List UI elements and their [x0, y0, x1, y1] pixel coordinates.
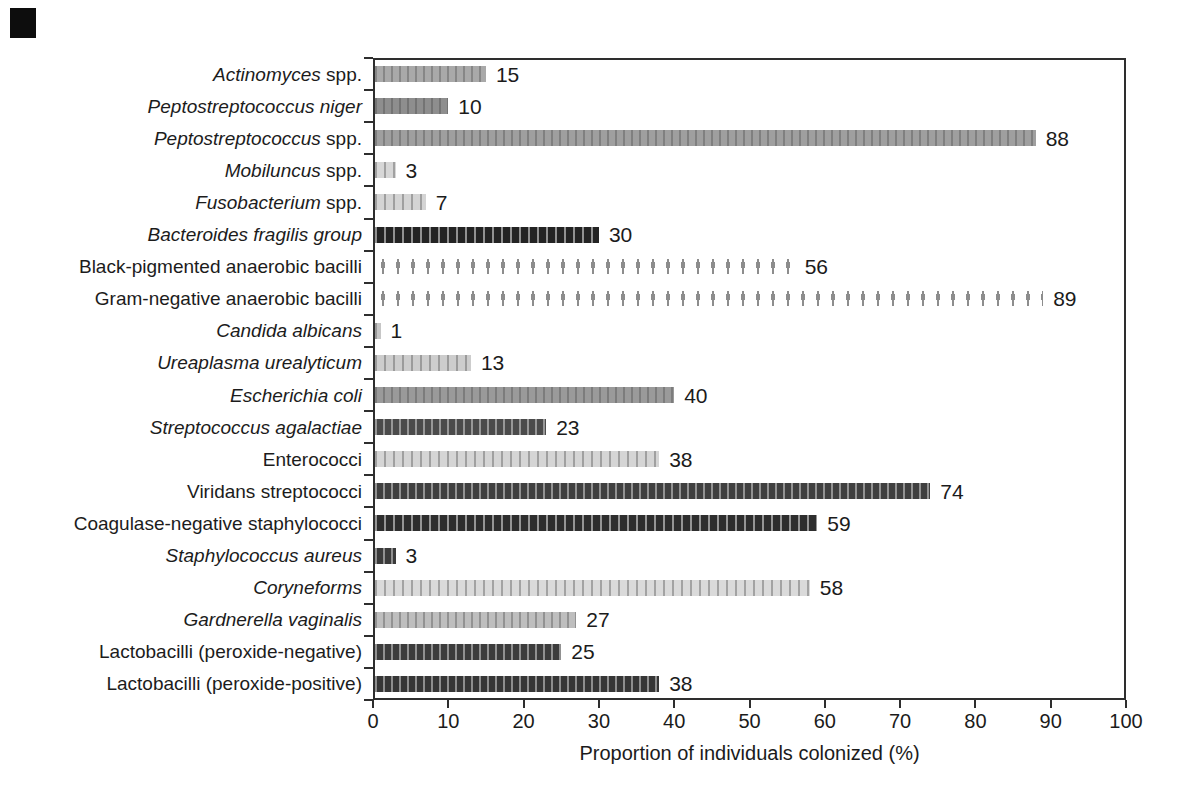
bar	[375, 580, 810, 596]
category-label-roman-part: Enterococci	[263, 449, 362, 470]
bar	[375, 451, 659, 467]
y-axis-tick	[364, 282, 373, 284]
value-label: 23	[556, 416, 579, 439]
value-label: 3	[406, 159, 418, 182]
x-axis-tick	[447, 700, 449, 708]
x-tick-label: 40	[644, 710, 704, 733]
x-axis-tick	[372, 700, 374, 708]
value-label: 13	[481, 351, 504, 374]
x-axis-tick	[1125, 700, 1127, 708]
value-label: 88	[1046, 127, 1069, 150]
bar	[375, 355, 471, 371]
x-axis-tick	[523, 700, 525, 708]
bar	[375, 162, 396, 178]
x-axis-tick	[824, 700, 826, 708]
value-label: 38	[669, 672, 692, 695]
category-label: Bacteroides fragilis group	[40, 223, 362, 246]
category-label-roman-part: spp.	[321, 128, 362, 149]
category-label-roman-part: spp.	[321, 160, 362, 181]
category-label: Coagulase-negative staphylococci	[40, 512, 362, 535]
value-label: 1	[391, 319, 403, 342]
bar	[375, 291, 1043, 306]
bar	[375, 98, 448, 114]
category-label-roman-part: Lactobacilli (peroxide-negative)	[99, 641, 362, 662]
x-tick-label: 30	[569, 710, 629, 733]
value-label: 30	[609, 223, 632, 246]
category-label-italic-part: Peptostreptococcus niger	[148, 96, 362, 117]
bar	[375, 387, 674, 403]
category-label: Actinomyces spp.	[40, 63, 362, 86]
y-axis-tick	[364, 571, 373, 573]
value-label: 89	[1053, 287, 1076, 310]
x-tick-label: 100	[1096, 710, 1156, 733]
bar	[375, 259, 795, 274]
x-tick-label: 80	[945, 710, 1005, 733]
value-label: 58	[820, 576, 843, 599]
value-label: 25	[571, 640, 594, 663]
y-axis-tick	[364, 314, 373, 316]
y-axis-tick	[364, 506, 373, 508]
x-tick-label: 50	[720, 710, 780, 733]
bar	[375, 548, 396, 564]
category-label: Escherichia coli	[40, 384, 362, 407]
category-label-roman-part: spp.	[321, 192, 362, 213]
y-axis-tick	[364, 410, 373, 412]
y-axis-tick	[364, 218, 373, 220]
bar	[375, 515, 817, 531]
category-label-italic-part: Coryneforms	[253, 577, 362, 598]
category-label-italic-part: Bacteroides fragilis group	[148, 224, 362, 245]
value-label: 59	[827, 512, 850, 535]
value-label: 15	[496, 63, 519, 86]
category-label-italic-part: Escherichia coli	[230, 385, 362, 406]
y-axis-tick	[364, 667, 373, 669]
category-label: Lactobacilli (peroxide-negative)	[40, 640, 362, 663]
category-label: Peptostreptococcus niger	[40, 95, 362, 118]
category-label-roman-part: Gram-negative anaerobic bacilli	[95, 288, 362, 309]
bar	[375, 644, 561, 660]
category-label: Peptostreptococcus spp.	[40, 127, 362, 150]
y-axis-tick	[364, 89, 373, 91]
y-axis-tick	[364, 442, 373, 444]
x-tick-label: 0	[343, 710, 403, 733]
value-label: 7	[436, 191, 448, 214]
category-label: Viridans streptococci	[40, 480, 362, 503]
figure: 0102030405060708090100Actinomyces spp.15…	[0, 0, 1189, 798]
category-label-italic-part: Streptococcus agalactiae	[150, 417, 362, 438]
y-axis-tick	[364, 153, 373, 155]
y-axis-tick	[364, 603, 373, 605]
category-label: Candida albicans	[40, 319, 362, 342]
bar	[375, 612, 576, 628]
bar	[375, 323, 381, 339]
y-axis-tick	[364, 635, 373, 637]
y-axis-tick	[364, 346, 373, 348]
x-axis-tick	[749, 700, 751, 708]
value-label: 40	[684, 384, 707, 407]
bar	[375, 483, 930, 499]
category-label: Gram-negative anaerobic bacilli	[40, 287, 362, 310]
value-label: 10	[458, 95, 481, 118]
category-label-roman-part: Black-pigmented anaerobic bacilli	[79, 256, 362, 277]
y-axis-tick	[364, 250, 373, 252]
bar	[375, 194, 426, 210]
value-label: 27	[586, 608, 609, 631]
category-label: Ureaplasma urealyticum	[40, 351, 362, 374]
category-label-roman-part: spp.	[321, 64, 362, 85]
category-label-roman-part: Coagulase-negative staphylococci	[74, 513, 362, 534]
x-axis-tick	[1050, 700, 1052, 708]
category-label-italic-part: Ureaplasma urealyticum	[157, 352, 362, 373]
x-tick-label: 70	[870, 710, 930, 733]
x-axis-tick	[974, 700, 976, 708]
x-axis-tick	[673, 700, 675, 708]
category-label-italic-part: Actinomyces	[213, 64, 321, 85]
category-label: Black-pigmented anaerobic bacilli	[40, 255, 362, 278]
category-label-italic-part: Fusobacterium	[195, 192, 321, 213]
category-label: Streptococcus agalactiae	[40, 416, 362, 439]
bar	[375, 676, 659, 692]
y-axis-tick	[364, 474, 373, 476]
category-label-italic-part: Gardnerella vaginalis	[184, 609, 363, 630]
category-label: Enterococci	[40, 448, 362, 471]
y-axis-tick	[364, 378, 373, 380]
category-label: Gardnerella vaginalis	[40, 608, 362, 631]
category-label-italic-part: Mobiluncus	[225, 160, 321, 181]
y-axis-tick	[364, 185, 373, 187]
